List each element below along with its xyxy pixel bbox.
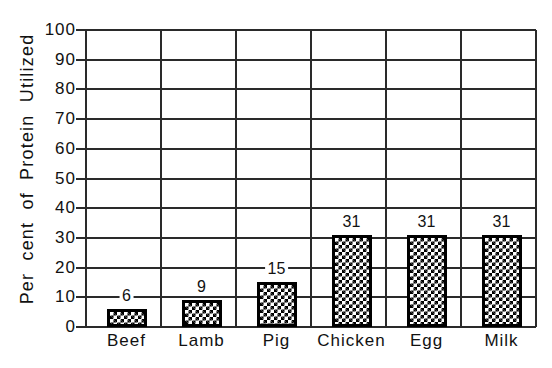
bar-lamb <box>182 300 222 327</box>
gridline-30 <box>76 237 536 239</box>
y-tick-label: 90 <box>0 51 76 68</box>
column-divider <box>460 30 462 327</box>
y-tick-label: 70 <box>0 110 76 127</box>
value-label: 15 <box>265 261 289 277</box>
y-axis-line <box>85 30 87 327</box>
y-tick-label: 80 <box>0 80 76 97</box>
gridline-90 <box>76 59 536 61</box>
gridline-20 <box>76 267 536 269</box>
y-tick-label: 40 <box>0 199 76 216</box>
y-tick-label: 0 <box>0 318 76 335</box>
y-tick-label: 30 <box>0 229 76 246</box>
x-category-label: Milk <box>484 331 518 351</box>
y-tick-label: 100 <box>0 21 76 38</box>
x-category-label: Pig <box>263 331 291 351</box>
gridline-60 <box>76 148 536 150</box>
bar-chicken <box>332 235 372 327</box>
y-tick-label: 20 <box>0 259 76 276</box>
gridline-80 <box>76 88 536 90</box>
bar-egg <box>407 235 447 327</box>
x-category-label: Chicken <box>317 331 385 351</box>
bar-chart: Per cent of Protein Utilized 01020304050… <box>0 0 552 368</box>
gridline-40 <box>76 207 536 209</box>
value-label: 9 <box>194 279 209 295</box>
y-tick-label: 50 <box>0 170 76 187</box>
gridline-100 <box>76 29 536 31</box>
x-category-label: Egg <box>410 331 443 351</box>
column-divider <box>160 30 162 327</box>
gridline-70 <box>76 118 536 120</box>
x-category-label: Beef <box>107 331 146 351</box>
value-label: 31 <box>490 214 514 230</box>
column-divider <box>310 30 312 327</box>
column-divider <box>235 30 237 327</box>
x-category-label: Lamb <box>178 331 225 351</box>
value-label: 31 <box>415 214 439 230</box>
value-label: 31 <box>340 214 364 230</box>
bar-pig <box>257 282 297 327</box>
plot-area: 6915313131 <box>86 30 536 327</box>
column-divider <box>385 30 387 327</box>
y-tick-label: 60 <box>0 140 76 157</box>
gridline-50 <box>76 178 536 180</box>
gridline-10 <box>76 296 536 298</box>
column-divider <box>535 30 537 327</box>
bar-beef <box>107 309 147 327</box>
value-label: 6 <box>119 288 134 304</box>
y-tick-label: 10 <box>0 288 76 305</box>
bar-milk <box>482 235 522 327</box>
